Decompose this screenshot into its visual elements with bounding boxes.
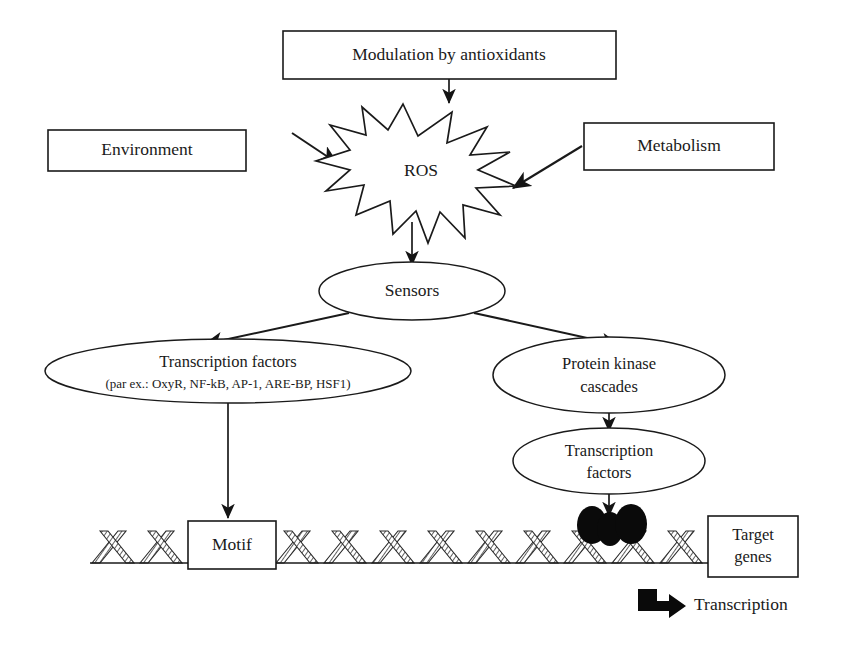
protein-kinase-label-line2: cascades <box>580 377 638 396</box>
node-motif: Motif <box>188 521 276 569</box>
dna-turn <box>140 531 182 563</box>
node-metabolism: Metabolism <box>584 123 774 170</box>
transcription-factors-left-ellipse <box>45 339 411 403</box>
node-target-genes: Target genes <box>708 516 798 577</box>
protein-kinase-label-line1: Protein kinase <box>562 354 656 373</box>
transcription-output-group: Transcription <box>638 589 788 618</box>
transcription-factors-left-label: Transcription factors <box>159 352 296 371</box>
diagram-canvas: Modulation by antioxidants Environment M… <box>0 0 851 649</box>
bent-arrow-icon <box>638 589 686 618</box>
node-modulation-by-antioxidants: Modulation by antioxidants <box>283 31 616 79</box>
dna-bound-protein-blobs <box>577 504 647 546</box>
target-genes-label-line2: genes <box>734 547 772 566</box>
environment-label: Environment <box>101 139 193 159</box>
dna-turn <box>372 531 414 563</box>
ros-pathway-diagram: Modulation by antioxidants Environment M… <box>0 0 851 649</box>
protein-blob <box>615 504 647 544</box>
node-transcription-factors-left: Transcription factors (par ex.: OxyR, NF… <box>45 339 411 403</box>
node-environment: Environment <box>48 130 246 171</box>
dna-turn <box>516 531 558 563</box>
transcription-factors-right-label-line2: factors <box>587 463 632 482</box>
ros-label: ROS <box>404 160 438 180</box>
transcription-output-label: Transcription <box>694 594 788 614</box>
protein-kinase-ellipse <box>493 337 725 413</box>
modulation-label: Modulation by antioxidants <box>352 44 546 64</box>
node-sensors: Sensors <box>319 262 505 320</box>
dna-turn <box>420 531 462 563</box>
transcription-factors-right-ellipse <box>513 428 705 494</box>
edge-metabolism-to-ros <box>513 146 582 188</box>
node-ros: ROS <box>316 104 516 243</box>
transcription-factors-right-label-line1: Transcription <box>565 441 653 460</box>
dna-turn <box>660 531 702 563</box>
sensors-label: Sensors <box>385 280 440 300</box>
dna-turn <box>276 531 318 563</box>
dna-turn <box>468 531 510 563</box>
transcription-factors-left-sublabel: (par ex.: OxyR, NF-kB, AP-1, ARE-BP, HSF… <box>105 376 350 391</box>
node-transcription-factors-right: Transcription factors <box>513 428 705 494</box>
target-genes-label-line1: Target <box>732 525 774 544</box>
dna-turn <box>324 531 366 563</box>
motif-label: Motif <box>212 534 252 554</box>
metabolism-label: Metabolism <box>637 135 721 155</box>
dna-turn <box>92 531 134 563</box>
node-protein-kinase-cascades: Protein kinase cascades <box>493 337 725 413</box>
